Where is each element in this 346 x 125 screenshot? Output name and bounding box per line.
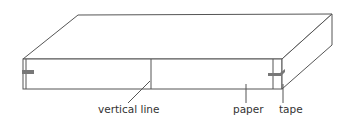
tape-left bbox=[22, 70, 34, 74]
label-paper: paper bbox=[233, 103, 264, 115]
label-vertical-line: vertical line bbox=[98, 103, 159, 115]
box-front-face bbox=[23, 59, 282, 89]
paper-box-diagram: vertical line paper tape bbox=[0, 0, 346, 125]
label-tape: tape bbox=[279, 103, 303, 115]
box-top-face bbox=[23, 14, 332, 59]
